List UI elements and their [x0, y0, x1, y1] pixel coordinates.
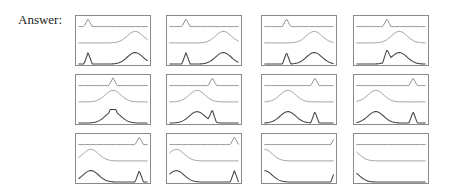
bump-trace [169, 149, 238, 161]
sum-trace [78, 171, 147, 182]
bump-trace [264, 149, 333, 161]
sum-trace [356, 51, 425, 64]
waveform-panel [75, 15, 151, 66]
bump-trace [264, 90, 333, 102]
sum-trace [169, 53, 238, 64]
bump-trace [264, 31, 333, 43]
waveform-panel [75, 133, 151, 184]
waveform-panel [353, 74, 429, 125]
bump-trace [169, 90, 238, 102]
sum-trace [356, 112, 425, 123]
spike-trace [78, 19, 147, 26]
sum-trace [356, 173, 425, 182]
bump-trace [356, 90, 425, 102]
spike-trace [264, 79, 333, 86]
sum-trace [264, 171, 333, 182]
waveform-panel [353, 133, 429, 184]
waveform-panel [261, 15, 337, 66]
bump-trace [78, 90, 147, 102]
waveform-panel [353, 15, 429, 66]
waveform-panel [166, 15, 242, 66]
panel-grid [0, 0, 451, 187]
sum-trace [264, 53, 333, 64]
spike-trace [356, 19, 425, 26]
sum-trace [169, 111, 238, 123]
spike-trace [169, 79, 238, 86]
spike-trace [78, 138, 147, 145]
bump-trace [78, 149, 147, 161]
sum-trace [78, 53, 147, 64]
waveform-panel [261, 133, 337, 184]
waveform-panel [75, 74, 151, 125]
bump-trace [78, 31, 147, 43]
waveform-panel [166, 74, 242, 125]
waveform-panel [166, 133, 242, 184]
spike-trace [78, 78, 147, 86]
sum-trace [264, 112, 333, 123]
waveform-panel [261, 74, 337, 125]
spike-trace [356, 79, 425, 86]
spike-trace [264, 20, 333, 27]
sum-trace [169, 171, 238, 182]
bump-trace [169, 31, 238, 43]
spike-trace [264, 139, 333, 144]
spike-trace [169, 137, 238, 144]
bump-trace [356, 152, 425, 161]
sum-trace [78, 110, 147, 123]
spike-trace [169, 19, 238, 26]
bump-trace [356, 31, 425, 43]
